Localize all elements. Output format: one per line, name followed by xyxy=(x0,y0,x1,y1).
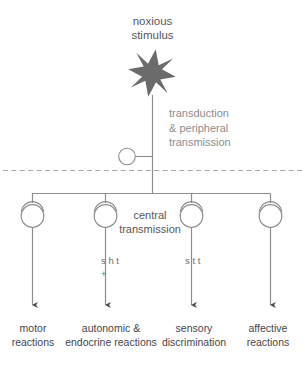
starburst-icon xyxy=(125,46,180,101)
central-transmission-label: central transmission xyxy=(110,208,190,236)
pain-pathway-diagram: noxious stimulus transduction & peripher… xyxy=(0,0,305,375)
noxious-stimulus-label: noxious stimulus xyxy=(90,14,215,42)
outcome-label-sensory: sensory discrimination xyxy=(155,322,233,349)
outcome-label-autonomic-endocrine: autonomic & endocrine reactions xyxy=(64,322,158,349)
outcome-label-motor: motor reactions xyxy=(2,322,64,349)
transduction-peripheral-transmission-label: transduction & peripheral transmission xyxy=(169,106,299,150)
ganglion-cell-node xyxy=(119,148,153,165)
branch-motor xyxy=(21,194,44,306)
pathway-marker-left: s h t + xyxy=(101,255,119,280)
outcome-label-affective: affective reactions xyxy=(234,322,302,349)
branch-affective xyxy=(259,194,282,306)
diagram-canvas xyxy=(0,0,305,375)
pathway-marker-right: s t t xyxy=(185,255,203,268)
